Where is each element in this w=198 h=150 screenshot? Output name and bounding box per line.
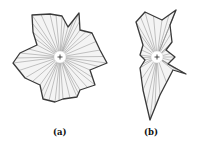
caption-a: (a) bbox=[53, 127, 67, 137]
figure-canvas bbox=[0, 0, 198, 150]
star-polygon-a bbox=[13, 13, 107, 102]
caption-b: (b) bbox=[144, 127, 158, 137]
star-polygon-b bbox=[136, 10, 186, 120]
